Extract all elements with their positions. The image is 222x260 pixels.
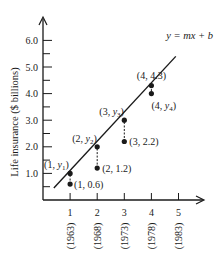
observed-point-label: (2, 1.2) — [102, 163, 131, 175]
line-point — [95, 144, 100, 149]
y-tick-label: 4.0 — [26, 88, 39, 99]
observed-point-label: (4, 4.3) — [137, 70, 166, 82]
x-tick-label: 5 — [176, 207, 181, 218]
line-point-label: (2, y2) — [72, 133, 97, 146]
x-ticks: 1(1963)2(1968)3(1973)4(1978)5(1983) — [65, 193, 185, 249]
point-labels: (1, 0.6)(2, 1.2)(3, 2.2)(4, 4.3)(1, y1)(… — [44, 70, 176, 191]
line-point-label: (1, y1) — [44, 159, 69, 172]
observed-point — [68, 181, 73, 186]
y-tick-label: 5.0 — [26, 62, 39, 73]
x-tick-label: 2 — [95, 207, 100, 218]
line-point-label: (4, y4) — [151, 100, 176, 113]
x-tick-year-label: (1968) — [92, 223, 104, 250]
observed-point-label: (1, 0.6) — [74, 179, 103, 191]
line-equation-label: y = mx + b — [165, 30, 213, 41]
y-tick-label: 6.0 — [26, 35, 39, 46]
observed-point-label: (3, 2.2) — [129, 136, 158, 148]
x-tick-year-label: (1973) — [119, 223, 131, 250]
line-point — [68, 171, 73, 176]
observed-point — [122, 139, 127, 144]
x-tick-year-label: (1978) — [146, 223, 158, 250]
observed-point — [95, 165, 100, 170]
observed-point — [149, 83, 154, 88]
y-axis-label: Life insurance ($ billions) — [9, 67, 21, 177]
line-point — [149, 91, 154, 96]
x-tick-label: 4 — [149, 207, 154, 218]
x-tick-label: 1 — [68, 207, 73, 218]
line-point-label: (3, y3) — [99, 106, 124, 119]
x-tick-year-label: (1963) — [65, 223, 77, 250]
x-tick-year-label: (1983) — [173, 223, 185, 250]
chart: 1.02.03.04.05.06.0 1(1963)2(1968)3(1973)… — [0, 0, 222, 260]
y-tick-label: 1.0 — [26, 168, 39, 179]
y-tick-label: 2.0 — [26, 141, 39, 152]
x-tick-label: 3 — [122, 207, 127, 218]
y-tick-label: 3.0 — [26, 115, 39, 126]
line-point — [122, 118, 127, 123]
